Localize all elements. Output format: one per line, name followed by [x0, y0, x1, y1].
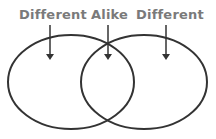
venn-diagram: Different Alike Different — [0, 0, 216, 139]
left-circle — [8, 35, 134, 129]
label-different-right: Different — [136, 7, 204, 22]
right-circle — [81, 35, 207, 129]
label-alike: Alike — [91, 7, 128, 22]
left-arrow-icon — [46, 25, 54, 60]
right-arrow-icon — [162, 25, 170, 60]
label-different-left: Different — [19, 7, 87, 22]
